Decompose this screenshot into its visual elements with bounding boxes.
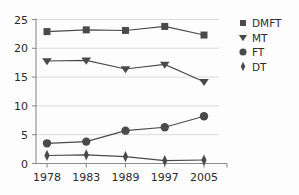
x-tick-label: 1978 <box>33 171 61 184</box>
data-point <box>162 155 167 166</box>
legend-item-label: DMFT <box>252 17 282 29</box>
data-point <box>201 32 208 39</box>
data-point <box>43 139 51 147</box>
series-mt <box>42 58 209 86</box>
gridlines <box>36 20 219 135</box>
legend: DMFTMTFTDT <box>239 17 282 73</box>
legend-item-ft[interactable]: FT <box>239 46 264 58</box>
diamond-icon <box>241 62 245 72</box>
y-tick-label: 10 <box>14 100 28 113</box>
y-tick-label: 0 <box>21 158 28 171</box>
data-point <box>44 150 49 161</box>
data-point <box>200 112 208 120</box>
y-axis-tick-labels: 0510152025 <box>14 14 28 171</box>
data-point <box>123 151 128 162</box>
axes <box>32 19 227 168</box>
x-tick-label: 1997 <box>151 171 179 184</box>
data-point <box>42 58 52 65</box>
y-tick-label: 20 <box>14 42 28 55</box>
data-point <box>121 66 131 73</box>
legend-item-mt[interactable]: MT <box>239 32 268 44</box>
data-point <box>121 126 129 134</box>
y-tick-label: 25 <box>14 14 28 27</box>
legend-item-label: MT <box>252 32 268 44</box>
x-tick-label: 1989 <box>112 171 140 184</box>
series-dmft <box>44 23 208 39</box>
data-series <box>42 23 209 166</box>
x-tick-label: 1983 <box>72 171 100 184</box>
data-point <box>122 27 129 34</box>
y-tick-label: 15 <box>14 71 28 84</box>
data-point <box>199 79 209 86</box>
legend-item-label: FT <box>252 46 265 58</box>
triangle-down-icon <box>239 35 247 41</box>
data-point <box>83 26 90 33</box>
legend-item-dmft[interactable]: DMFT <box>240 17 282 29</box>
legend-item-dt[interactable]: DT <box>241 61 267 73</box>
legend-item-label: DT <box>252 61 267 73</box>
data-point <box>82 137 90 145</box>
chart-canvas: 0510152025 19781983198919972005 DMFTMTFT… <box>0 0 299 195</box>
data-point <box>84 149 89 160</box>
series-ft <box>43 112 208 147</box>
data-point <box>44 28 51 35</box>
x-axis-tick-labels: 19781983198919972005 <box>33 171 218 184</box>
circle-icon <box>239 48 246 55</box>
square-icon <box>240 20 246 26</box>
data-point <box>161 23 168 30</box>
x-tick-label: 2005 <box>190 171 218 184</box>
data-point <box>161 123 169 131</box>
line-chart: 0510152025 19781983198919972005 DMFTMTFT… <box>0 0 299 195</box>
y-tick-label: 5 <box>21 129 28 142</box>
